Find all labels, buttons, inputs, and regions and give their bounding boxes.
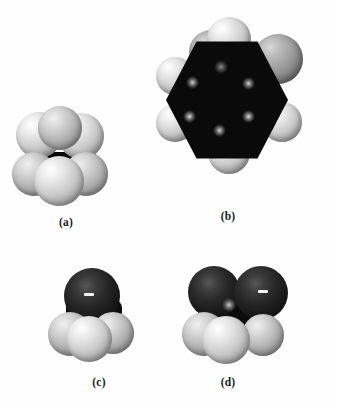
panel-d-molecule: [182, 262, 302, 378]
benzene-carbon-highlight-1: [214, 60, 228, 74]
panel-c-model: (c): [48, 268, 158, 378]
panel-c-molecule: [48, 268, 158, 378]
panel-a-ethane: (a): [8, 104, 128, 216]
benzene-carbon-highlight-5: [242, 110, 255, 123]
panel-c-hydrogen-front: [66, 316, 112, 362]
benzene-carbon-highlight-4: [183, 110, 196, 123]
panel-d-hydrogen-front: [202, 316, 250, 364]
panel-d-core-highlight: [222, 298, 236, 312]
benzene-carbon-highlight-6: [213, 124, 226, 137]
benzene-carbon-highlight-2: [186, 76, 199, 89]
panel-c-specular-dash: [84, 293, 94, 296]
panel-c-caption: (c): [69, 376, 129, 388]
panel-d-caption: (d): [198, 376, 258, 388]
panel-b-benzene: (b): [150, 12, 330, 212]
panel-d-model: (d): [182, 262, 302, 378]
panel-b-caption: (b): [198, 210, 258, 222]
ethane-hydrogen-front-center: [34, 156, 84, 206]
panel-d-specular-dash: [258, 290, 268, 293]
ethane-hydrogen-back-center: [38, 106, 82, 150]
panel-a-caption: (a): [36, 216, 96, 228]
ethane-model: [8, 104, 128, 216]
panel-d-dark-atom-right: [234, 266, 288, 320]
benzene-model: [150, 12, 330, 212]
molecular-models-figure: (a) (b): [0, 0, 337, 408]
benzene-carbon-highlight-3: [242, 77, 255, 90]
